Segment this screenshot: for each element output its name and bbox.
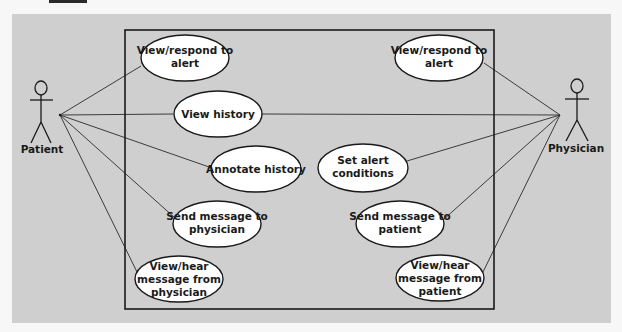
diagram-background — [12, 14, 611, 323]
use-case-label: conditions — [332, 167, 394, 179]
use-case-label: View/hear — [410, 259, 470, 271]
use-case-label: message from — [398, 272, 482, 284]
header-bar — [49, 0, 87, 3]
use-case-label: View history — [181, 108, 255, 120]
use-case-label: View/respond to — [137, 44, 233, 56]
actor-label-patient: Patient — [21, 143, 64, 155]
use-case-diagram: Patient Physician View/respond to alert … — [0, 0, 622, 332]
use-case-label: physician — [189, 223, 245, 235]
association-point-patient — [59, 114, 61, 116]
use-case-label: Set alert — [337, 154, 388, 166]
use-case-label: Send message to — [166, 210, 268, 222]
use-case-label: message from — [137, 273, 221, 285]
diagram-canvas: Patient Physician View/respond to alert … — [0, 0, 622, 332]
use-case-label: Send message to — [349, 210, 451, 222]
actor-label-physician: Physician — [548, 142, 604, 154]
use-case-label: View/respond to — [391, 44, 487, 56]
use-case-label: patient — [379, 223, 422, 235]
use-case-label: View/hear — [149, 260, 209, 272]
use-case-label: physician — [151, 286, 207, 298]
use-case-label: alert — [425, 57, 453, 69]
use-case-label: alert — [171, 57, 199, 69]
use-case-label: Annotate history — [206, 163, 306, 175]
use-case-label: patient — [419, 285, 462, 297]
